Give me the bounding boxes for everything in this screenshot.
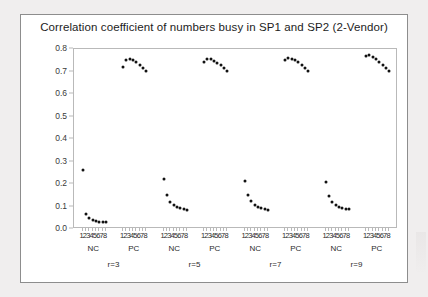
data-point [84,212,87,215]
data-point [327,194,330,197]
x-axis-tick-label: 8 [346,231,350,240]
data-point [203,61,206,64]
y-axis-tick-label: 0.6 [55,88,67,98]
data-point [324,180,327,183]
data-point [142,66,145,69]
data-point [307,70,310,73]
data-point [122,65,125,68]
data-point [185,208,188,211]
y-axis-tick-label: 0.2 [55,178,67,188]
scatter-points-layer [74,49,396,227]
x-axis-tick-label: 8 [305,231,309,240]
x-axis-subgroup-label: PC [371,244,382,253]
y-axis-tick-label: 0.7 [55,66,67,76]
data-point [246,194,249,197]
data-point [381,63,384,66]
x-axis: 12345678NC12345678PC12345678NC12345678PC… [73,228,397,290]
data-point [169,200,172,203]
x-axis-group-label: r=9 [351,260,363,269]
data-point [250,200,253,203]
y-axis-tick-label: 0.3 [55,156,67,166]
data-point [226,69,229,72]
x-axis-tick-label: 8 [224,231,228,240]
x-axis-subgroup-label: PC [209,244,220,253]
data-point [243,179,246,182]
x-axis-tick-label: 8 [143,231,147,240]
data-point [266,208,269,211]
y-axis-tick-label: 0.5 [55,111,67,121]
data-point [138,63,141,66]
y-axis: 0.00.10.20.30.40.50.60.70.8 [21,48,73,229]
chart-title: Correlation coefficient of numbers busy … [21,21,407,33]
data-point [378,60,381,63]
data-point [300,63,303,66]
x-axis-tick-label: 8 [265,231,269,240]
plot-area [73,48,397,228]
x-axis-subgroup-label: PC [290,244,301,253]
y-axis-tick-label: 0.1 [55,201,67,211]
data-point [304,66,307,69]
x-axis-subgroup-label: NC [249,244,261,253]
data-point [165,193,168,196]
data-point [104,221,107,224]
data-point [145,70,148,73]
data-point [388,70,391,73]
x-axis-group-label: r=5 [189,260,201,269]
data-point [223,66,226,69]
chart-card: Correlation coefficient of numbers busy … [20,14,408,283]
data-point [347,208,350,211]
data-point [219,63,222,66]
x-axis-group-label: r=7 [270,260,282,269]
x-axis-subgroup-label: NC [168,244,180,253]
x-axis-subgroup-label: NC [330,244,342,253]
data-point [331,200,334,203]
data-point [162,178,165,181]
x-axis-group-label: r=3 [108,260,120,269]
x-axis-tick-label: 8 [386,231,390,240]
x-axis-subgroup-label: PC [128,244,139,253]
y-axis-tick-label: 0.4 [55,133,67,143]
y-axis-tick-label: 0.8 [55,43,67,53]
page-edge-artifact [416,232,426,272]
x-axis-tick-label: 8 [103,231,107,240]
x-axis-tick-label: 8 [184,231,188,240]
data-point [385,66,388,69]
data-point [284,58,287,61]
y-axis-tick-label: 0.0 [55,223,67,233]
data-point [81,169,84,172]
x-axis-subgroup-label: NC [87,244,99,253]
